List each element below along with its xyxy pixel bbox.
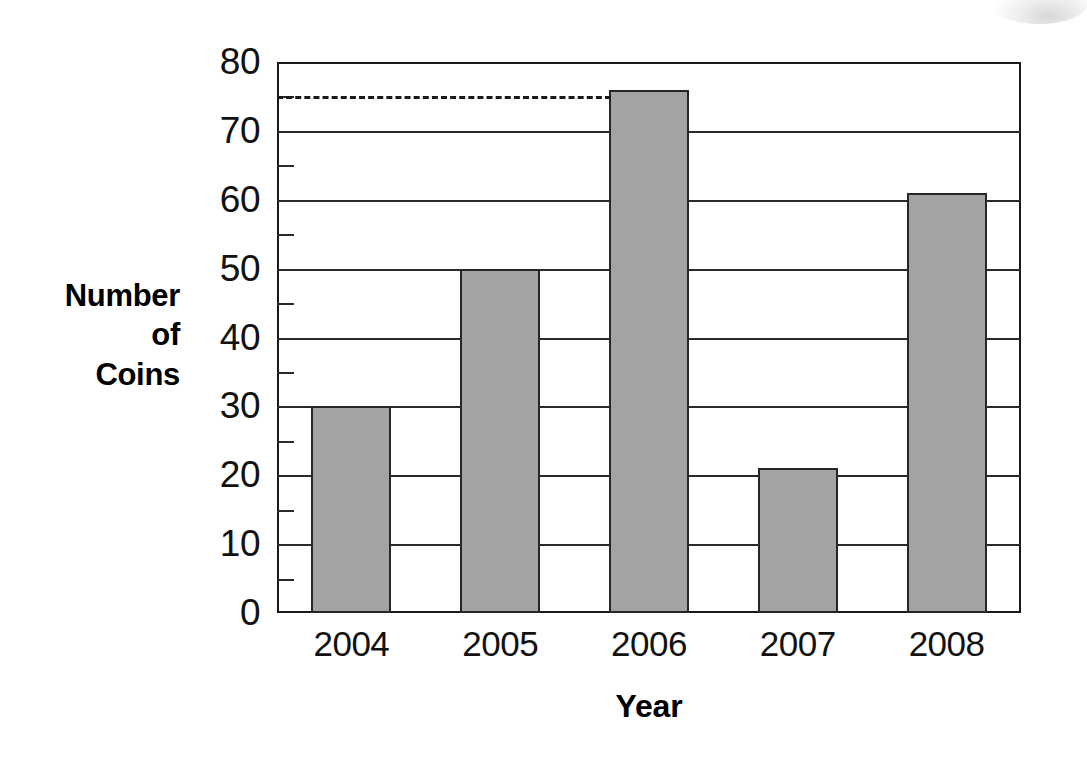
- scan-artifact: [991, 0, 1087, 24]
- y-axis-tick-label: 60: [220, 181, 260, 218]
- x-axis-tick-label: 2007: [723, 626, 872, 661]
- y-axis-tick-label: 0: [240, 594, 260, 631]
- bar: [907, 193, 987, 613]
- threshold-dashed-line: [277, 96, 611, 99]
- x-axis-tick-labels: 20042005200620072008: [277, 626, 1021, 670]
- x-axis-tick-label: 2004: [277, 626, 426, 661]
- y-axis-tick-label: 40: [220, 319, 260, 356]
- y-axis-title-line: of: [16, 315, 180, 354]
- bar: [460, 269, 540, 613]
- y-axis-tick-label: 80: [220, 43, 260, 80]
- y-axis-tick-label: 30: [220, 387, 260, 424]
- x-axis-tick-label: 2005: [426, 626, 575, 661]
- y-axis-minor-tick: [277, 234, 294, 236]
- y-axis-minor-tick: [277, 510, 294, 512]
- y-axis-tick-label: 20: [220, 456, 260, 493]
- y-axis-minor-tick: [277, 372, 294, 374]
- y-axis-minor-tick: [277, 303, 294, 305]
- y-axis-title-line: Coins: [16, 355, 180, 394]
- y-axis-tick-labels: 01020304050607080: [188, 62, 260, 613]
- y-axis-minor-tick: [277, 441, 294, 443]
- y-axis-tick-label: 70: [220, 112, 260, 149]
- x-axis-tick-label: 2006: [575, 626, 724, 661]
- x-axis-title: Year: [277, 688, 1021, 725]
- bar: [311, 406, 391, 613]
- y-axis-tick-label: 10: [220, 525, 260, 562]
- y-axis-title: NumberofCoins: [16, 276, 180, 394]
- y-axis-minor-tick: [277, 579, 294, 581]
- y-axis-minor-tick: [277, 165, 294, 167]
- x-axis-tick-label: 2008: [872, 626, 1021, 661]
- y-axis-title-line: Number: [16, 276, 180, 315]
- bar: [758, 468, 838, 613]
- y-axis-tick-label: 50: [220, 250, 260, 287]
- bar: [609, 90, 689, 613]
- plot-area: [277, 62, 1021, 613]
